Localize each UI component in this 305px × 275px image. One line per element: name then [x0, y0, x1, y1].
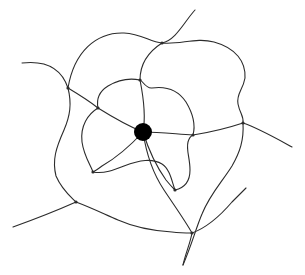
node-lower-center — [173, 188, 176, 191]
node-right — [241, 121, 244, 124]
node-mid-left — [96, 106, 99, 109]
node-lower-left — [91, 170, 94, 173]
node-top — [160, 41, 163, 44]
node-upper-center — [138, 78, 141, 81]
node-mid-right — [191, 133, 194, 136]
node-upper-left — [66, 86, 69, 89]
figure-root — [0, 0, 305, 275]
node-bottom-left — [74, 200, 77, 203]
center-vertex-dot — [134, 123, 152, 141]
node-bottom — [190, 231, 193, 234]
curve-canvas — [0, 0, 305, 275]
